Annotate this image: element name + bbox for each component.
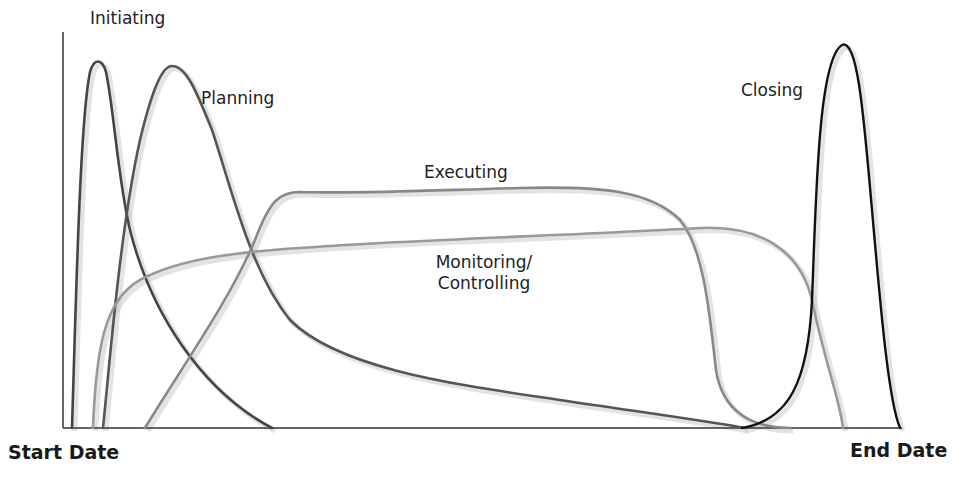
label-initiating: Initiating [90, 8, 165, 29]
label-closing: Closing [741, 80, 803, 101]
label-planning: Planning [201, 88, 274, 109]
curve-planning [103, 66, 745, 428]
label-monitoring-line2: Controlling [428, 273, 540, 294]
end-date-label: End Date [850, 439, 947, 461]
label-monitoring-line1: Monitoring/ [428, 252, 540, 273]
label-executing: Executing [424, 162, 508, 183]
start-date-label: Start Date [8, 441, 119, 463]
process-groups-diagram [0, 0, 970, 483]
label-monitoring-controlling: Monitoring/ Controlling [428, 252, 540, 295]
curve-shadows [75, 48, 903, 431]
